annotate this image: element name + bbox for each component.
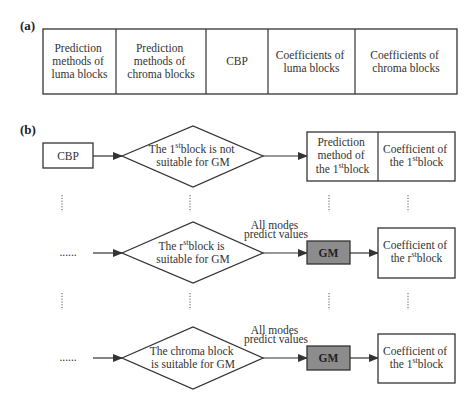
ellipsis-start: ...... xyxy=(59,351,76,363)
cell-chroma-prediction: Prediction methods of chroma blocks xyxy=(127,42,195,80)
coefficient-text: Coefficient of the rstblock xyxy=(383,239,450,264)
flow-row-chroma-block: ...... The chroma block is suitable for … xyxy=(59,324,455,389)
gm-label: GM xyxy=(319,352,339,364)
flow-row-first-block: CBP The 1stblock is not suitable for GM … xyxy=(43,126,455,187)
flow-row-rth-block: ...... The rstblock is suitable for GM A… xyxy=(59,219,455,283)
cbp-label: CBP xyxy=(57,150,79,162)
decision-text: The 1stblock is not suitable for GM xyxy=(149,141,237,168)
prediction-method-text: Prediction method of the 1stblock xyxy=(316,136,370,175)
cell-chroma-coefficients: Coefficients of chroma blocks xyxy=(370,49,441,74)
vertical-ellipsis-group xyxy=(62,293,408,310)
cell-luma-coefficients: Coefficients of luma blocks xyxy=(276,49,347,74)
decision-text: The chroma block is suitable for GM xyxy=(150,345,237,370)
cell-luma-prediction: Prediction methods of luma blocks xyxy=(52,42,108,80)
ellipsis-start: ...... xyxy=(59,246,76,258)
diagram-canvas: (a) Prediction methods of luma blocks Pr… xyxy=(0,0,475,405)
decision-text: The rstblock is suitable for GM xyxy=(156,238,229,265)
gm-label: GM xyxy=(319,247,339,259)
panel-a-label: (a) xyxy=(20,18,35,33)
vertical-ellipsis-group xyxy=(62,195,408,212)
bitstream-structure-table: Prediction methods of luma blocks Predic… xyxy=(43,29,457,94)
edge-label: All modes predict values xyxy=(244,219,309,241)
cell-cbp: CBP xyxy=(226,55,248,67)
panel-b-label: (b) xyxy=(20,122,36,137)
edge-label: All modes predict values xyxy=(244,324,309,346)
